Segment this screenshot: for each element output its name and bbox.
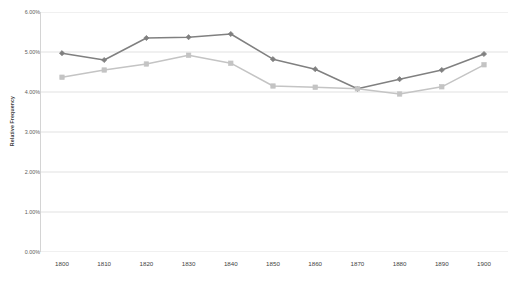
series-layer xyxy=(59,31,486,96)
data-point-marker xyxy=(439,67,444,72)
x-tick-label: 1800 xyxy=(42,260,82,267)
data-point-marker xyxy=(313,67,318,72)
data-point-marker xyxy=(397,92,401,96)
y-axis-tick-labels: 0.00%1.00%2.00%3.00%4.00%5.00%6.00% xyxy=(0,0,40,282)
x-tick-label: 1840 xyxy=(211,260,251,267)
data-point-marker xyxy=(144,35,149,40)
plot-svg xyxy=(40,12,508,252)
data-point-marker xyxy=(313,85,317,89)
x-tick-label: 1900 xyxy=(464,260,504,267)
data-point-marker xyxy=(60,75,64,79)
data-point-marker xyxy=(59,51,64,56)
y-tick-label: 3.00% xyxy=(4,129,40,135)
x-tick-label: 1880 xyxy=(380,260,420,267)
data-point-marker xyxy=(440,85,444,89)
y-tick-label: 1.00% xyxy=(4,209,40,215)
data-point-marker xyxy=(186,53,190,57)
data-point-marker xyxy=(397,77,402,82)
y-tick-label: 4.00% xyxy=(4,89,40,95)
data-point-marker xyxy=(482,63,486,67)
y-tick-label: 6.00% xyxy=(4,9,40,15)
data-point-marker xyxy=(186,35,191,40)
x-tick-label: 1860 xyxy=(295,260,335,267)
data-series xyxy=(59,31,486,91)
data-point-marker xyxy=(102,68,106,72)
x-tick-label: 1890 xyxy=(422,260,462,267)
x-tick-label: 1830 xyxy=(169,260,209,267)
x-tick-label: 1850 xyxy=(253,260,293,267)
x-tick-label: 1810 xyxy=(84,260,124,267)
y-tick-label: 5.00% xyxy=(4,49,40,55)
y-tick-label: 0.00% xyxy=(4,249,40,255)
data-point-marker xyxy=(271,84,275,88)
data-point-marker xyxy=(102,57,107,62)
data-point-marker xyxy=(355,87,359,91)
gridlines xyxy=(40,12,508,252)
y-tick-label: 2.00% xyxy=(4,169,40,175)
x-tick-label: 1870 xyxy=(337,260,377,267)
line-chart: Relative Frequency 0.00%1.00%2.00%3.00%4… xyxy=(0,0,510,282)
x-tick-label: 1820 xyxy=(126,260,166,267)
data-point-marker xyxy=(229,61,233,65)
plot-area xyxy=(40,12,508,252)
data-point-marker xyxy=(144,62,148,66)
